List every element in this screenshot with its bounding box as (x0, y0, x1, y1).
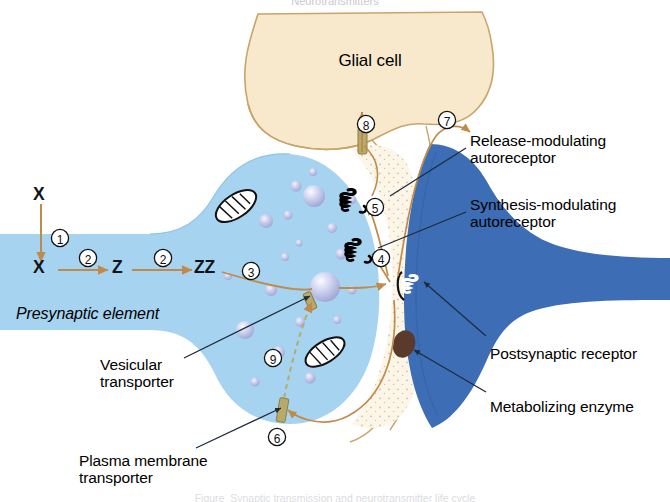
step-badge-8: 8 (357, 115, 374, 132)
postsynaptic-cell-body (404, 144, 670, 428)
step-badge-2b: 2 (154, 249, 171, 266)
vesicular-transporter-label-line1: Vesicular (100, 356, 162, 373)
molecule-precursor-inside: X (33, 259, 45, 276)
release-modulating-label-line2: autoreceptor (470, 149, 556, 166)
step-badge-1: 1 (51, 229, 68, 246)
plasma-membrane-transporter-label-line1: Plasma membrane (79, 452, 208, 469)
step-badge-8-text: 8 (363, 119, 370, 133)
leader-plasma-membrane-transporter (196, 408, 281, 448)
postsynaptic-receptor-label: Postsynaptic receptor (490, 345, 637, 362)
step-badge-3-text: 3 (248, 266, 255, 280)
step-badge-2b-text: 2 (160, 253, 167, 267)
step-badge-4: 4 (372, 249, 389, 266)
docked-vesicle (310, 272, 340, 302)
metabolizing-enzyme-label: Metabolizing enzyme (490, 398, 634, 415)
release-modulating-label-line1: Release-modulating (470, 132, 606, 149)
step-badge-4-text: 4 (378, 253, 385, 267)
molecule-intermediate: Z (112, 259, 123, 276)
step-badge-7-text: 7 (444, 115, 451, 129)
synapse-diagram-canvas: Glial cell (0, 0, 670, 502)
figure-bottom-caption: Figure Synaptic transmission and neurotr… (0, 492, 670, 502)
presynaptic-element-label: Presynaptic element (16, 305, 159, 322)
step-badge-2a-text: 2 (85, 253, 92, 267)
molecule-precursor-outside: X (33, 186, 45, 203)
step-badge-2a: 2 (79, 249, 96, 266)
step-badge-7: 7 (438, 111, 455, 128)
step-badge-9-text: 9 (270, 353, 277, 367)
vesicular-transporter-label-line2: transporter (100, 373, 174, 390)
step-badge-5-text: 5 (372, 202, 379, 216)
step-badge-6-text: 6 (274, 432, 281, 446)
glial-cell-label: Glial cell (338, 51, 401, 70)
postsynaptic-cell (404, 144, 670, 428)
step-badge-9: 9 (264, 349, 281, 366)
step-badge-1-text: 1 (57, 233, 64, 247)
synapse-figure: Neurotransmitters (0, 0, 670, 502)
plasma-membrane-transporter-label-line2: transporter (79, 469, 153, 486)
synthesis-modulating-label-line2: autoreceptor (470, 213, 556, 230)
step-badge-5: 5 (366, 198, 383, 215)
step-badge-6: 6 (268, 428, 285, 445)
molecule-transmitter: ZZ (194, 259, 215, 276)
step-badge-3: 3 (242, 262, 259, 279)
synthesis-modulating-label-line1: Synthesis-modulating (470, 196, 616, 213)
